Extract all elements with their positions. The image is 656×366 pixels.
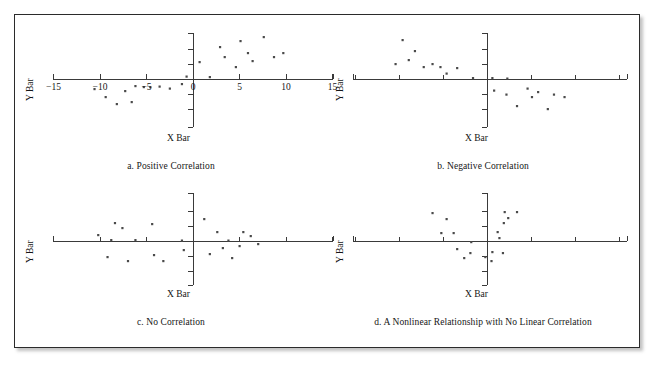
data-point xyxy=(159,86,161,88)
data-point xyxy=(282,52,284,54)
data-point xyxy=(402,39,404,41)
data-point xyxy=(408,59,410,61)
data-point xyxy=(209,253,211,255)
data-point xyxy=(506,78,508,80)
data-point xyxy=(153,254,155,256)
data-point xyxy=(504,211,506,213)
data-point xyxy=(456,248,458,250)
scatter-plot-a xyxy=(15,15,343,147)
plot-area-b: Y Bar X Bar xyxy=(327,15,639,147)
data-point xyxy=(463,257,465,259)
x-tick-label: 10 xyxy=(281,82,291,92)
panel-no-correlation: Y Bar X Bar c. No Correlation xyxy=(15,181,327,347)
data-point xyxy=(526,88,528,90)
data-point xyxy=(502,252,504,254)
data-point xyxy=(414,50,416,52)
data-point xyxy=(227,240,229,242)
x-tick-label: 0 xyxy=(191,82,196,92)
data-point xyxy=(121,227,123,229)
data-point xyxy=(242,231,244,233)
data-point xyxy=(169,88,171,90)
data-point xyxy=(199,61,201,63)
data-point xyxy=(252,60,254,62)
data-point xyxy=(209,76,211,78)
data-point xyxy=(216,231,218,233)
data-point xyxy=(446,218,448,220)
data-point xyxy=(503,222,505,224)
data-point xyxy=(239,245,241,247)
x-tick-label: −15 xyxy=(46,82,61,92)
data-point xyxy=(484,256,486,258)
data-point xyxy=(185,76,187,78)
data-point xyxy=(439,66,441,68)
data-point xyxy=(456,67,458,69)
data-point xyxy=(235,66,237,68)
scatter-plot-b xyxy=(327,15,637,147)
data-point xyxy=(116,103,118,105)
data-point xyxy=(516,211,518,213)
panel-positive-correlation: Y Bar X Bar −15−10−5051015 a. Positive C… xyxy=(15,15,327,181)
data-point xyxy=(531,96,533,98)
data-point xyxy=(239,40,241,42)
x-tick-label: 5 xyxy=(237,82,242,92)
x-axis-label-a: X Bar xyxy=(167,133,190,143)
caption-d: d. A Nonlinear Relationship with No Line… xyxy=(327,317,639,327)
data-point xyxy=(181,240,183,242)
scatter-plot-c xyxy=(15,181,343,303)
data-point xyxy=(440,232,442,234)
data-point xyxy=(547,108,549,110)
caption-c: c. No Correlation xyxy=(15,317,327,327)
x-axis-label-d: X Bar xyxy=(465,289,488,299)
data-point xyxy=(247,52,249,54)
data-point xyxy=(131,101,133,103)
data-point xyxy=(219,46,221,48)
data-point xyxy=(134,239,136,241)
data-point xyxy=(203,218,205,220)
data-point xyxy=(469,252,471,254)
data-point xyxy=(162,260,164,262)
panel-nonlinear-relationship: Y Bar X Bar d. A Nonlinear Relationship … xyxy=(327,181,639,347)
data-point xyxy=(493,90,495,92)
data-point xyxy=(124,90,126,92)
y-axis-label-a: Y Bar xyxy=(25,78,35,101)
x-tick-label: −5 xyxy=(141,82,151,92)
panel-grid: Y Bar X Bar −15−10−5051015 a. Positive C… xyxy=(15,15,639,347)
x-axis-label-b: X Bar xyxy=(465,133,488,143)
data-point xyxy=(110,239,112,241)
caption-a: a. Positive Correlation xyxy=(15,161,327,171)
data-point xyxy=(273,56,275,58)
data-point xyxy=(498,237,500,239)
y-axis-label-c: Y Bar xyxy=(25,240,35,263)
data-point xyxy=(105,96,107,98)
data-point xyxy=(183,249,185,251)
data-point xyxy=(516,105,518,107)
data-point xyxy=(263,36,265,38)
data-point xyxy=(490,260,492,262)
data-point xyxy=(491,77,493,79)
y-axis-label-d: Y Bar xyxy=(335,240,345,263)
data-point xyxy=(537,91,539,93)
data-point xyxy=(453,232,455,234)
data-point xyxy=(250,235,252,237)
caption-b: b. Negative Correlation xyxy=(327,161,639,171)
data-point xyxy=(127,260,129,262)
data-point xyxy=(431,212,433,214)
data-point xyxy=(497,231,499,233)
panel-negative-correlation: Y Bar X Bar b. Negative Correlation xyxy=(327,15,639,181)
data-point xyxy=(257,243,259,245)
data-point xyxy=(97,234,99,236)
scatter-plot-d xyxy=(327,181,637,303)
data-point xyxy=(446,73,448,75)
data-point xyxy=(470,241,472,243)
data-point xyxy=(151,223,153,225)
data-point xyxy=(224,56,226,58)
data-point xyxy=(231,257,233,259)
data-point xyxy=(134,85,136,87)
plot-area-c: Y Bar X Bar xyxy=(15,181,327,313)
data-point xyxy=(431,63,433,65)
y-axis-label-b: Y Bar xyxy=(335,78,345,101)
data-point xyxy=(563,96,565,98)
figure-frame: Y Bar X Bar −15−10−5051015 a. Positive C… xyxy=(14,14,640,348)
data-point xyxy=(505,94,507,96)
data-point xyxy=(106,256,108,258)
